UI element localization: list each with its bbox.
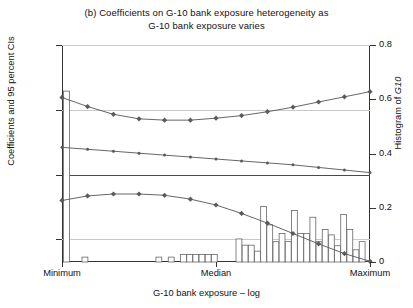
series-marker-diamond [188, 118, 193, 123]
y-axis-right-label: Histogram of G10 [393, 28, 403, 198]
histogram-bar [279, 234, 285, 262]
series-marker-dot [163, 154, 166, 157]
series-marker-dot [292, 163, 295, 166]
series-marker-diamond [188, 197, 193, 202]
series-marker-diamond [213, 116, 218, 121]
histogram-bar [261, 206, 267, 262]
x-axis-tick [370, 262, 371, 267]
plot-area: 0.020.010–0.010.80.60.40.20MinimumMedian… [62, 45, 370, 262]
chart-title-line-1: (b) Coefficients on G-10 bank exposure h… [0, 6, 413, 19]
series-marker-diamond [213, 202, 218, 207]
series-marker-diamond [85, 104, 90, 109]
series-marker-dot [138, 152, 141, 155]
histogram-bar [82, 257, 88, 262]
histogram-bar [347, 229, 353, 262]
y-axis-right-label-italic: G10 [393, 77, 403, 95]
series-marker-dot [343, 169, 346, 172]
series-marker-diamond [290, 105, 295, 110]
series-marker-diamond [265, 109, 270, 114]
series-marker-diamond [85, 193, 90, 198]
y-axis-right-tick-label: 0.8 [379, 39, 413, 49]
series-marker-diamond [136, 116, 141, 121]
histogram-bar [291, 210, 297, 262]
x-axis-tick-label: Maximum [330, 268, 410, 278]
histogram-bar [156, 257, 162, 262]
histogram-bar [242, 245, 248, 262]
histogram-bar [273, 242, 279, 262]
x-axis-tick [62, 262, 63, 267]
y-axis-right-tick [370, 45, 376, 46]
y-axis-left-tick [56, 175, 62, 176]
histogram-bar [267, 225, 273, 262]
y-axis-right-tick [370, 99, 376, 100]
x-axis-tick-label: Minimum [22, 268, 102, 278]
series-marker-diamond [239, 211, 244, 216]
histogram-bar [168, 257, 174, 262]
y-axis-right-tick-label: 0.2 [379, 202, 413, 212]
series-marker-diamond [316, 99, 321, 104]
histogram-bar [335, 246, 341, 262]
series-marker-dot [266, 161, 269, 164]
histogram-bar [205, 254, 211, 262]
y-axis-left-tick [56, 45, 62, 46]
chart-title-line-2: G-10 bank exposure varies [0, 19, 413, 32]
series-marker-diamond [162, 193, 167, 198]
x-axis-tick [216, 262, 217, 267]
series-marker-diamond [342, 94, 347, 99]
series-marker-dot [240, 159, 243, 162]
y-axis-right-tick-label: 0 [379, 256, 413, 266]
y-axis-left-tick [56, 110, 62, 111]
y-axis-right-tick [370, 154, 376, 155]
series-marker-diamond [136, 191, 141, 196]
histogram-bar [193, 254, 199, 262]
y-axis-left-tick [56, 239, 62, 240]
x-axis-label: G-10 bank exposure – log [0, 288, 413, 298]
histogram-bar [255, 251, 261, 262]
histogram-bar [248, 245, 254, 262]
series-canvas [62, 45, 370, 262]
series-marker-dot [189, 156, 192, 159]
histogram-bar [310, 217, 316, 262]
series-marker-diamond [367, 89, 372, 94]
series-marker-diamond [111, 112, 116, 117]
histogram-bar [353, 250, 359, 262]
histogram-bar [285, 242, 291, 262]
series-marker-dot [215, 158, 218, 161]
histogram-bar [187, 254, 193, 262]
y-axis-right-tick [370, 208, 376, 209]
y-axis-right-tick-label: 0.4 [379, 148, 413, 158]
series-marker-dot [61, 146, 64, 149]
y-axis-right-tick-label: 0.6 [379, 93, 413, 103]
series-marker-dot [369, 171, 372, 174]
series-marker-diamond [239, 113, 244, 118]
histogram-bar [211, 254, 217, 262]
x-axis-tick-label: Median [176, 268, 256, 278]
chart-figure: (b) Coefficients on G-10 bank exposure h… [0, 0, 413, 308]
histogram-bar [181, 254, 187, 262]
y-axis-left-label: Coefficients and 95 percent CIs [6, 6, 16, 196]
histogram-bar [199, 254, 205, 262]
series-marker-diamond [111, 191, 116, 196]
histogram-bar [64, 91, 70, 262]
chart-title: (b) Coefficients on G-10 bank exposure h… [0, 6, 413, 32]
series-marker-dot [112, 150, 115, 153]
series-marker-dot [86, 148, 89, 151]
series-marker-dot [317, 166, 320, 169]
histogram-bar [236, 239, 242, 262]
series-marker-diamond [162, 118, 167, 123]
